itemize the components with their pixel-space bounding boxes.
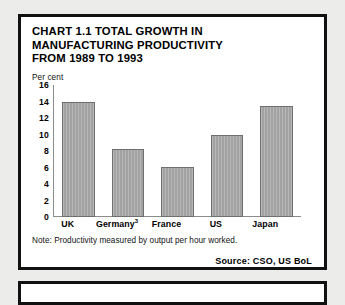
bar-slot	[260, 85, 293, 217]
y-axis-tick-12: 12	[39, 114, 49, 123]
bar-slot	[62, 85, 95, 217]
next-panel-partial	[18, 281, 327, 305]
bar-us	[211, 135, 244, 218]
chart-panel-inner: CHART 1.1 TOTAL GROWTH IN MANUFACTURING …	[21, 17, 324, 267]
y-axis-tick-2: 2	[44, 196, 49, 205]
bar-series	[54, 85, 301, 217]
chart-title-line-3: FROM 1989 TO 1993	[32, 52, 312, 66]
chart-note: Note: Productivity measured by output pe…	[32, 236, 237, 245]
y-axis-tick-4: 4	[44, 180, 49, 189]
chart-title-line-2: MANUFACTURING PRODUCTIVITY	[32, 39, 312, 53]
y-axis-tick-6: 6	[44, 163, 49, 172]
y-axis-tick-14: 14	[39, 97, 49, 106]
x-label-france: France	[142, 219, 191, 229]
chart-panel: CHART 1.1 TOTAL GROWTH IN MANUFACTURING …	[18, 14, 327, 270]
chart-title-line-1: CHART 1.1 TOTAL GROWTH IN	[32, 25, 312, 39]
chart-title: CHART 1.1 TOTAL GROWTH IN MANUFACTURING …	[32, 25, 312, 66]
bar-slot	[161, 85, 194, 217]
x-label-japan: Japan	[241, 219, 290, 229]
y-axis-tick-8: 8	[44, 147, 49, 156]
bar-slot	[112, 85, 145, 217]
x-label-us: US	[191, 219, 240, 229]
footnote-marker: 3	[135, 218, 138, 224]
y-axis-tick-16: 16	[39, 81, 49, 90]
plot-area: 1614121086420	[32, 85, 316, 217]
x-axis-category-labels: UKGermany3FranceUSJapan	[43, 219, 290, 233]
bar-japan	[260, 106, 293, 217]
bar-slot	[211, 85, 244, 217]
y-axis-tick-labels: 1614121086420	[32, 85, 49, 217]
y-axis-tick-10: 10	[39, 130, 49, 139]
bar-uk	[62, 102, 95, 218]
x-label-germany: Germany3	[92, 219, 141, 229]
chart-source: Source: CSO, US BoL	[215, 256, 312, 266]
x-label-uk: UK	[43, 219, 92, 229]
bar-germany	[112, 149, 145, 217]
bar-france	[161, 167, 194, 217]
